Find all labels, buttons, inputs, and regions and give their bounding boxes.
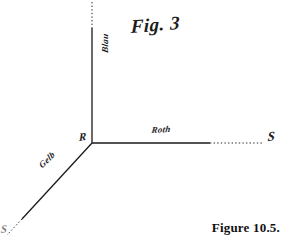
endpoint-label-right: S	[268, 129, 276, 143]
origin-point-label: R	[79, 131, 86, 143]
figure-title: Fig. 3	[131, 13, 181, 36]
axis-label-roth: Roth	[151, 125, 171, 135]
figure-page: Fig. 3 Blau Roth Gelb R S S Figure 10.5.	[0, 0, 287, 242]
axes-diagram	[0, 0, 287, 242]
endpoint-label-lower-left: S	[1, 223, 7, 235]
axis-diagonal-solid	[22, 143, 92, 219]
axis-label-blau: Blau	[101, 33, 110, 54]
figure-caption: Figure 10.5.	[212, 220, 280, 236]
axis-diagonal-dotted	[7, 219, 22, 235]
